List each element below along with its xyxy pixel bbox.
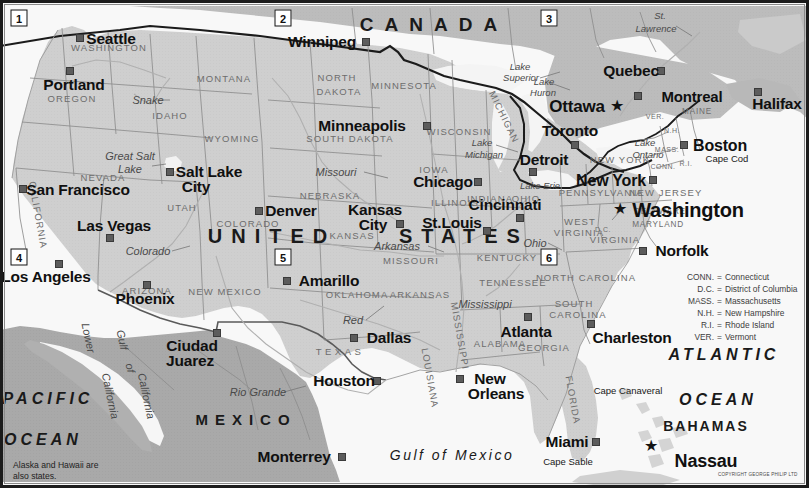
state-label-maine: MAINE xyxy=(682,108,712,116)
city-marker-seattle[interactable] xyxy=(76,34,84,42)
state-label-georgia: GEORGIA xyxy=(518,343,570,353)
city-label-phoenix: Phoenix xyxy=(116,291,175,307)
city-marker-las-vegas[interactable] xyxy=(106,234,114,242)
country-label-canada: CANADA xyxy=(360,15,508,34)
capital-star-ottawa[interactable]: ★ xyxy=(610,98,624,114)
state-label-virginia: VIRGINIA xyxy=(590,235,641,245)
city-label-orleans: Orleans xyxy=(468,386,524,402)
legend-equals: = xyxy=(715,332,724,344)
state-label-south-dakota: SOUTH DAKOTA xyxy=(306,134,393,144)
cape-label-cape-sable: Cape Sable xyxy=(543,457,593,467)
state-label-idaho: IDAHO xyxy=(152,111,188,121)
capital-star-washington[interactable]: ★ xyxy=(613,201,627,217)
city-label-houston: Houston xyxy=(313,373,374,389)
city-marker-detroit[interactable] xyxy=(529,168,537,176)
legend-abbr: CONN. xyxy=(686,272,715,284)
legend-equals: = xyxy=(715,272,724,284)
city-marker-atlanta[interactable] xyxy=(524,313,532,321)
legend-abbr: R.I. xyxy=(686,320,715,332)
city-label-ottawa: Ottawa xyxy=(549,98,604,115)
lake-label-great-salt-lake: Lake xyxy=(118,164,142,175)
state-label-new-jersey: NEW JERSEY xyxy=(630,188,703,198)
copyright-notice: COPYRIGHT GEORGE PHILIP LTD xyxy=(718,472,797,477)
legend-row: MASS. = Massachusetts xyxy=(686,296,799,308)
legend-row: N.H. = New Hampshire xyxy=(686,308,799,320)
legend-equals: = xyxy=(715,284,724,296)
grid-box-6[interactable]: 6 xyxy=(541,249,558,266)
city-marker-kansas-city[interactable] xyxy=(396,220,404,228)
river-label-missouri: Missouri xyxy=(316,167,357,178)
river-label-lawrence: Lawrence xyxy=(635,24,676,34)
legend-full: District of Columbia xyxy=(724,284,799,296)
city-label-montreal: Montreal xyxy=(662,89,723,104)
city-label-kansas-city: City xyxy=(359,217,387,233)
lake-label-great-salt: Great Salt xyxy=(105,151,155,162)
note-line-2: also states. xyxy=(13,471,99,482)
ocean-label-pacific: PACIFIC xyxy=(3,391,94,407)
state-label-north: NORTH xyxy=(317,73,356,83)
capital-star-nassau[interactable]: ★ xyxy=(644,438,658,454)
ocean-label-gulf-of-mexico: Gulf of Mexico xyxy=(390,448,514,462)
state-label-dakota-n: DAKOTA xyxy=(317,87,362,97)
city-marker-portland[interactable] xyxy=(66,67,74,75)
city-label-winnipeg: Winnipeg xyxy=(288,34,356,50)
city-marker-miami[interactable] xyxy=(592,438,600,446)
river-label-mississippi: Mississippi xyxy=(458,299,511,310)
legend-equals: = xyxy=(715,320,724,332)
legend-full: New Hampshire xyxy=(724,308,799,320)
state-label-maryland: MARYLAND xyxy=(632,221,684,229)
city-marker-cincinnati[interactable] xyxy=(516,214,524,222)
river-label-arkansas: Arkansas xyxy=(374,241,420,252)
lake-label-ontario-lake: Lake xyxy=(635,138,656,148)
city-marker-chicago[interactable] xyxy=(474,178,482,186)
city-marker-new-york[interactable] xyxy=(649,176,657,184)
state-label-nebraska: NEBRASKA xyxy=(300,191,361,201)
city-label-norfolk: Norfolk xyxy=(656,243,709,259)
state-label-wyoming: WYOMING xyxy=(204,134,259,144)
city-marker-charleston[interactable] xyxy=(587,320,595,328)
grid-box-3[interactable]: 3 xyxy=(541,10,558,27)
city-label-st-louis: St.Louis xyxy=(422,215,482,231)
city-label-monterrey: Monterrey xyxy=(257,449,330,465)
river-label-rio-grande: Rio Grande xyxy=(230,387,286,398)
city-label-chicago: Chicago xyxy=(413,174,473,190)
lake-label-michigan-lake: Lake xyxy=(472,138,493,148)
city-label-portland: Portland xyxy=(43,77,104,93)
city-label-minneapolis: Minneapolis xyxy=(318,118,405,134)
city-marker-minneapolis[interactable] xyxy=(423,122,431,130)
city-marker-phoenix[interactable] xyxy=(143,281,151,289)
grid-box-5[interactable]: 5 xyxy=(275,249,292,266)
cape-label-cape-cod: Cape Cod xyxy=(706,154,749,164)
city-label-halifax: Halifax xyxy=(752,96,801,112)
legend-abbr: VER. xyxy=(686,332,715,344)
river-label-colorado: Colorado xyxy=(126,246,171,257)
city-marker-dallas[interactable] xyxy=(350,334,358,342)
city-marker-boston[interactable] xyxy=(680,141,688,149)
grid-box-2[interactable]: 2 xyxy=(275,10,292,27)
city-marker-st-louis[interactable] xyxy=(483,227,491,235)
legend-full: Connecticut xyxy=(724,272,799,284)
legend-abbr: N.H. xyxy=(686,308,715,320)
city-marker-winnipeg[interactable] xyxy=(362,38,370,46)
city-marker-norfolk[interactable] xyxy=(639,247,647,255)
state-label-new-mexico: NEW MEXICO xyxy=(188,287,261,297)
city-marker-salt-lake-city[interactable] xyxy=(166,168,174,176)
legend-equals: = xyxy=(715,308,724,320)
city-label-las-vegas: Las Vegas xyxy=(77,218,151,234)
grid-box-1[interactable]: 1 xyxy=(11,10,28,27)
ocean-label-atlantic-ocean: OCEAN xyxy=(679,392,757,408)
grid-box-4[interactable]: 4 xyxy=(11,249,28,266)
city-marker-montreal[interactable] xyxy=(634,92,642,100)
state-abbr-ri: R.I. xyxy=(680,160,693,167)
us-reference-map: CANADA UNITED STATES MEXICO WASHINGTON O… xyxy=(0,0,809,488)
city-marker-new-orleans[interactable] xyxy=(456,375,464,383)
city-marker-amarillo[interactable] xyxy=(283,277,291,285)
lake-label-erie: Lake Erie xyxy=(520,181,560,191)
legend-row: D.C. = District of Columbia xyxy=(686,284,799,296)
city-marker-monterrey[interactable] xyxy=(338,453,346,461)
city-marker-los-angeles[interactable] xyxy=(55,260,63,268)
city-marker-denver[interactable] xyxy=(255,207,263,215)
legend-full: Rhode Island xyxy=(724,320,799,332)
city-marker-toronto[interactable] xyxy=(571,141,579,149)
city-marker-ciudad-juarez[interactable] xyxy=(213,329,221,337)
